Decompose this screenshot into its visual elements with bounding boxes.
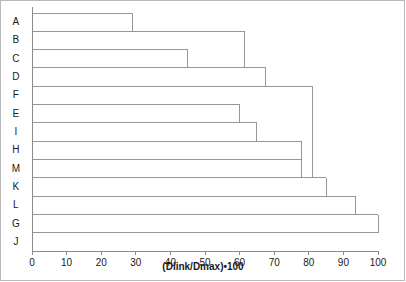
- dendrogram-plot: [0, 0, 406, 282]
- leaf-label-b: B: [4, 35, 28, 45]
- leaf-label-k: K: [4, 182, 28, 192]
- leaf-label-l: L: [4, 200, 28, 210]
- leaf-label-a: A: [4, 17, 28, 27]
- leaf-label-d: D: [4, 72, 28, 82]
- leaf-label-h: H: [4, 145, 28, 155]
- leaf-label-f: F: [4, 90, 28, 100]
- leaf-label-c: C: [4, 54, 28, 64]
- leaf-label-e: E: [4, 109, 28, 119]
- x-axis-title: (Dlink/Dmax)•100: [0, 261, 406, 272]
- leaf-label-i: I: [4, 127, 28, 137]
- leaf-label-m: M: [4, 164, 28, 174]
- leaf-label-g: G: [4, 219, 28, 229]
- leaf-label-j: J: [4, 237, 28, 247]
